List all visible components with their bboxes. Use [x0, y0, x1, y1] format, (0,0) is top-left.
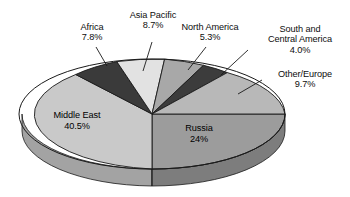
label-other-europe-name: Other/Europe [265, 69, 345, 79]
label-middle-east: Middle East 40.5% [36, 110, 118, 131]
label-north-america: North America 5.3% [168, 22, 252, 43]
label-south-and-central-america-name-line2: Central America [254, 34, 346, 44]
label-russia-name: Russia [168, 123, 230, 134]
label-asia-pacific-name: Asia Pacific [115, 10, 191, 20]
label-south-and-central-america-value: 4.0% [254, 45, 346, 55]
label-russia-value: 24% [168, 134, 230, 145]
label-middle-east-value: 40.5% [36, 121, 118, 132]
label-middle-east-name: Middle East [36, 110, 118, 121]
label-north-america-name: North America [168, 22, 252, 32]
label-other-europe-value: 9.7% [265, 79, 345, 89]
label-south-and-central-america: South and Central America 4.0% [254, 24, 346, 55]
label-south-and-central-america-name-line1: South and [254, 24, 346, 34]
label-africa-value: 7.8% [62, 32, 122, 42]
label-north-america-value: 5.3% [168, 32, 252, 42]
label-africa-name: Africa [62, 22, 122, 32]
pie-chart: Africa 7.8% Asia Pacific 8.7% North Amer… [0, 0, 350, 197]
label-other-europe: Other/Europe 9.7% [265, 69, 345, 90]
label-russia: Russia 24% [168, 123, 230, 144]
label-africa: Africa 7.8% [62, 22, 122, 43]
